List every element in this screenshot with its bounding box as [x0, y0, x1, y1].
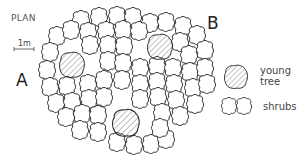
young-tree — [148, 34, 173, 59]
plan-title: PLAN — [11, 14, 36, 23]
young-tree — [60, 52, 85, 77]
point-label-b: B — [207, 15, 219, 32]
point-label-a: A — [16, 72, 28, 89]
plan-diagram — [0, 0, 301, 165]
legend-shrubs-symbol — [221, 97, 251, 114]
legend-young-tree-symbol — [224, 65, 247, 88]
scale-label: 1m — [18, 40, 31, 48]
legend-young-tree-label-2: tree — [260, 77, 280, 87]
legend-shrubs-label: shrubs — [263, 102, 297, 112]
legend-young-tree-label-1: young — [260, 66, 291, 76]
young-tree — [113, 109, 140, 136]
